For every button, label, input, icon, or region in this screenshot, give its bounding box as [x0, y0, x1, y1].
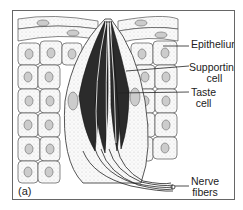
- label-nerve-fibers-line2: fibers: [191, 187, 219, 198]
- figure-frame: Epithelium Supporting cell Taste cell Ne…: [12, 10, 235, 200]
- label-supporting-cell: Supporting cell: [189, 62, 235, 84]
- label-nerve-fibers: Nerve fibers: [191, 176, 219, 198]
- label-taste-cell-line2: cell: [191, 98, 216, 109]
- label-taste-cell: Taste cell: [191, 87, 216, 109]
- label-epithelium: Epithelium: [191, 39, 235, 50]
- panel-label: (a): [18, 185, 31, 197]
- label-supporting-cell-line2: cell: [189, 73, 235, 84]
